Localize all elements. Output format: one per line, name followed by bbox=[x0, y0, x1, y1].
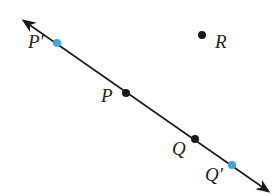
label-p: P bbox=[101, 86, 113, 105]
label-r: R bbox=[215, 32, 227, 51]
diagram: P′ P Q Q′ R bbox=[0, 0, 275, 196]
label-q: Q bbox=[172, 139, 186, 158]
point-p bbox=[122, 89, 130, 97]
label-p-prime: P′ bbox=[28, 32, 44, 51]
point-q-prime bbox=[228, 161, 236, 169]
point-r bbox=[198, 31, 206, 39]
label-q-prime: Q′ bbox=[205, 165, 223, 184]
point-p-prime bbox=[53, 39, 61, 47]
diagram-canvas bbox=[0, 0, 275, 196]
point-q bbox=[191, 135, 199, 143]
